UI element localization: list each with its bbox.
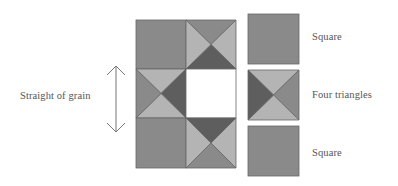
double-arrow-vertical-icon <box>106 64 126 134</box>
grid-cell-blank-center <box>186 69 236 118</box>
legend-square-bottom <box>247 125 301 178</box>
grid-cell-four-triangles-bottom-right <box>186 118 236 168</box>
quilt-grid <box>135 19 238 170</box>
grain-label: Straight of grain <box>20 90 91 101</box>
legend-label-four-triangles: Four triangles <box>312 89 372 100</box>
grid-cell-square-bottom-left <box>136 118 186 168</box>
legend-label-square-top: Square <box>312 31 342 42</box>
grid-cell-square-top-left <box>136 20 186 69</box>
legend-label-square-bottom: Square <box>312 147 342 158</box>
grid-cell-four-triangles-middle-left <box>136 69 186 118</box>
grid-cell-four-triangles-top-right <box>186 20 236 69</box>
legend-four-triangles <box>247 69 301 122</box>
legend-square-top <box>247 13 301 66</box>
